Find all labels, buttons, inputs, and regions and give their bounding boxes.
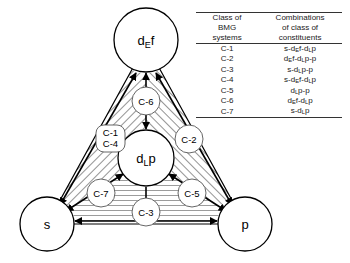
table-row: C-3 s-dLp-p	[196, 65, 342, 75]
cell-class: C-5	[196, 86, 258, 96]
cell-class: C-6	[196, 96, 258, 106]
cell-combination: s-dLp	[258, 106, 342, 117]
table-row: C-5 dLp-p	[196, 86, 342, 96]
table-row: C-2 dEf-dLp-p	[196, 54, 342, 64]
class-label-c2: C-2	[181, 134, 196, 145]
cell-combination: s-dLp-p	[258, 65, 342, 75]
table-row: C-1 s-dEf-dLp	[196, 44, 342, 55]
table-body: C-1 s-dEf-dLp C-2 dEf-dLp-p C-3 s-dLp-p …	[196, 44, 342, 118]
cell-combination: s-dEf-dLp	[258, 75, 342, 85]
class-label-c3: C-3	[138, 207, 153, 218]
header-class-line2: BMG	[198, 23, 256, 33]
cell-class: C-3	[196, 65, 258, 75]
header-class-line1: Class of	[198, 13, 256, 23]
class-label-c4: C-4	[103, 138, 118, 149]
cell-class: C-7	[196, 106, 258, 117]
table-row: C-7 s-dLp	[196, 106, 342, 117]
cell-combination: dEf-dLp	[258, 96, 342, 106]
class-label-c5: C-5	[184, 188, 199, 199]
figure-root: dEf dLp s p C-6 C-1 C-4 C-2 C-7	[0, 0, 350, 263]
header-class-of-bmg-systems: Class of BMG systems	[196, 13, 258, 44]
table-row: C-6 dEf-dLp	[196, 96, 342, 106]
header-combinations-of-class-of-constituents: Combinations of class of constituents	[258, 13, 342, 44]
class-table-wrapper: Class of BMG systems Combinations of cla…	[196, 12, 342, 118]
table-header-row: Class of BMG systems Combinations of cla…	[196, 13, 342, 44]
header-comb-line1: Combinations	[260, 13, 340, 23]
cell-combination: dLp-p	[258, 86, 342, 96]
class-table: Class of BMG systems Combinations of cla…	[196, 12, 342, 118]
node-s-label: s	[44, 217, 51, 232]
cell-combination: s-dEf-dLp	[258, 44, 342, 55]
class-label-c1: C-1	[103, 127, 118, 138]
header-comb-line2: of class of	[260, 23, 340, 33]
table-row: C-4 s-dEf-dLp	[196, 75, 342, 85]
cell-class: C-4	[196, 75, 258, 85]
header-class-line3: systems	[198, 33, 256, 43]
class-label-c6: C-6	[138, 96, 153, 107]
cell-class: C-1	[196, 44, 258, 55]
cell-class: C-2	[196, 54, 258, 64]
class-label-c7: C-7	[93, 188, 108, 199]
header-comb-line3: constituents	[260, 33, 340, 43]
cell-combination: dEf-dLp-p	[258, 54, 342, 64]
node-p-label: p	[241, 217, 248, 232]
